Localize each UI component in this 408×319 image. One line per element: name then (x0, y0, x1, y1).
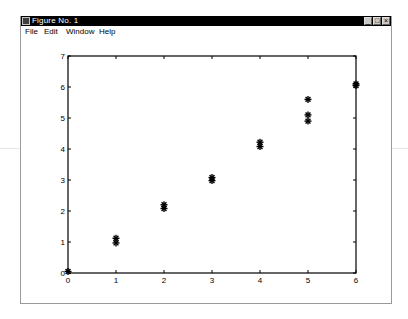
x-tick-label: 0 (66, 276, 71, 285)
asterisk-marker (113, 239, 120, 246)
scatter-plot: 012345601234567 (0, 0, 408, 319)
y-tick-label: 5 (61, 114, 66, 123)
y-tick-label: 4 (61, 145, 66, 154)
x-tick-label: 2 (162, 276, 167, 285)
x-tick-label: 3 (210, 276, 215, 285)
asterisk-marker (257, 143, 264, 150)
axes-box (68, 56, 356, 273)
asterisk-marker (305, 111, 312, 118)
asterisk-marker (305, 96, 312, 103)
plot-axes: 012345601234567 (61, 52, 359, 285)
y-tick-label: 6 (61, 83, 66, 92)
y-tick-label: 2 (61, 207, 66, 216)
asterisk-marker (353, 82, 360, 89)
asterisk-marker (209, 177, 216, 184)
y-tick-label: 1 (61, 238, 66, 247)
x-tick-label: 4 (258, 276, 263, 285)
x-tick-label: 6 (354, 276, 359, 285)
x-tick-label: 1 (114, 276, 119, 285)
asterisk-marker (161, 205, 168, 212)
y-tick-label: 3 (61, 176, 66, 185)
asterisk-marker (305, 118, 312, 125)
y-tick-label: 7 (61, 52, 66, 61)
asterisk-marker (65, 268, 72, 275)
data-points (65, 80, 360, 275)
x-tick-label: 5 (306, 276, 311, 285)
y-tick-label: 0 (61, 269, 66, 278)
